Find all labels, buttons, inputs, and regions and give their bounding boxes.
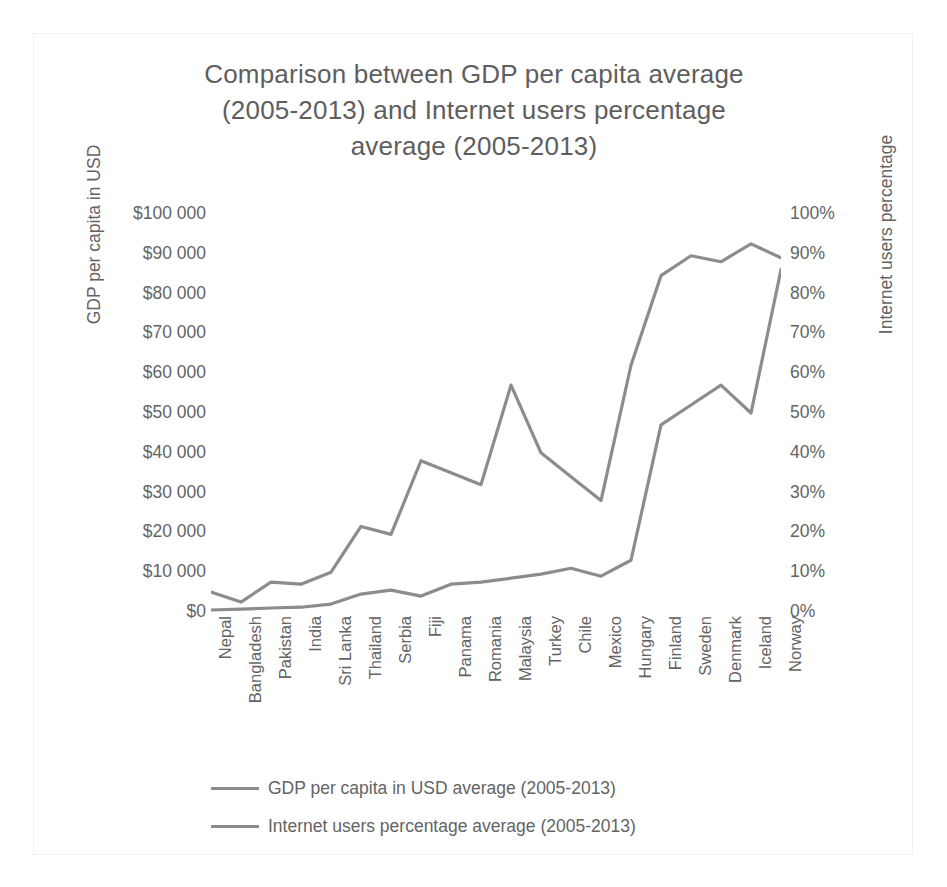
x-axis-label: Serbia [397, 616, 414, 664]
plot-wrapper: GDP per capita in USD Internet users per… [34, 34, 914, 856]
chart-legend: GDP per capita in USD average (2005-2013… [211, 769, 831, 845]
y-axis-right-tick: 90% [790, 245, 825, 263]
y-axis-left-tick: $90 000 [143, 245, 206, 263]
chart-lines [211, 214, 781, 612]
y-axis-right-tick: 100% [790, 205, 835, 223]
x-axis-label: Panama [457, 616, 474, 677]
x-axis-label: Finland [667, 616, 684, 670]
y-axis-right-tick: 30% [790, 484, 825, 502]
legend-item-gdp: GDP per capita in USD average (2005-2013… [211, 769, 831, 807]
y-axis-left-tick: $20 000 [143, 524, 206, 542]
y-axis-right-tick: 10% [790, 563, 825, 581]
y-axis-left-tick: $100 000 [133, 205, 206, 223]
x-axis-label: Norway [787, 616, 804, 672]
y-axis-left-tick: $60 000 [143, 364, 206, 382]
y-axis-left-tick: $50 000 [143, 404, 206, 422]
legend-swatch-gdp [211, 787, 259, 790]
y-axis-right-tick: 40% [790, 444, 825, 462]
y-axis-left-tick: $10 000 [143, 563, 206, 581]
x-axis-label: Denmark [727, 616, 744, 683]
y-axis-right-title: Internet users percentage [876, 95, 897, 375]
y-axis-right-ticks: 100%90%80%70%60%50%40%30%20%10%0% [790, 214, 870, 612]
series-line-internet [211, 244, 781, 602]
x-axis-label: Malaysia [517, 616, 534, 681]
y-axis-left-tick: $30 000 [143, 484, 206, 502]
x-axis-label: Bangladesh [247, 616, 264, 703]
x-axis-label: Nepal [217, 616, 234, 659]
x-axis-labels: NepalBangladeshPakistanIndiaSri LankaTha… [211, 616, 781, 756]
x-axis-label: Romania [487, 616, 504, 682]
legend-label-internet: Internet users percentage average (2005-… [268, 816, 636, 837]
x-axis-label: Sweden [697, 616, 714, 676]
plot-area [211, 214, 781, 612]
y-axis-right-tick: 60% [790, 364, 825, 382]
y-axis-left-tick: $40 000 [143, 444, 206, 462]
y-axis-left-tick: $70 000 [143, 325, 206, 343]
x-axis-label: Sri Lanka [337, 616, 354, 686]
x-axis-label: Hungary [637, 616, 654, 678]
x-axis-label: Turkey [547, 616, 564, 666]
y-axis-right-tick: 50% [790, 404, 825, 422]
x-axis-label: India [307, 616, 324, 652]
y-axis-right-tick: 20% [790, 524, 825, 542]
x-axis-label: Iceland [757, 616, 774, 669]
y-axis-right-tick: 80% [790, 285, 825, 303]
x-axis-label: Pakistan [277, 616, 294, 679]
x-axis-label: Fiji [427, 616, 444, 637]
x-axis-label: Mexico [607, 616, 624, 668]
legend-label-gdp: GDP per capita in USD average (2005-2013… [268, 778, 616, 799]
y-axis-left-ticks: $100 000$90 000$80 000$70 000$60 000$50 … [94, 214, 206, 612]
y-axis-right-tick: 70% [790, 325, 825, 343]
chart-container: Comparison between GDP per capita averag… [33, 33, 913, 855]
legend-swatch-internet [211, 825, 259, 828]
y-axis-left-tick: $0 [187, 603, 206, 621]
x-axis-label: Chile [577, 616, 594, 654]
x-axis-label: Thailand [367, 616, 384, 679]
y-axis-left-tick: $80 000 [143, 285, 206, 303]
legend-item-internet: Internet users percentage average (2005-… [211, 807, 831, 845]
